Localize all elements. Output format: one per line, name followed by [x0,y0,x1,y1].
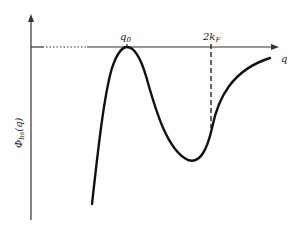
phi-curve [92,47,270,204]
2kf-label: 2kF [202,31,221,44]
x-axis-label: q [281,53,287,64]
y-axis-label: Φbs(q) [13,117,26,148]
svg-text:Φbs(q): Φbs(q) [13,117,26,148]
potential-diagram: q0 2kF q Φbs(q) [0,0,295,229]
q0-label: q0 [120,31,131,44]
x-axis-arrow-icon [271,44,279,50]
y-axis-arrow-icon [28,14,34,22]
